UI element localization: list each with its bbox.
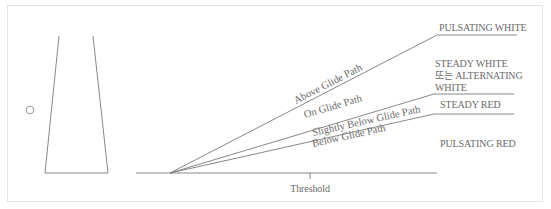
signal-pulsating-red: PULSATING RED	[440, 138, 516, 149]
lamp-icon	[26, 106, 34, 114]
signal-pulsating-white: PULSATING WHITE	[439, 22, 526, 33]
signal-steady-white-line2: 또는 ALTERNATING	[435, 70, 523, 81]
signal-steady-red: STEADY RED	[440, 99, 501, 110]
signal-steady-white-line1: STEADY WHITE	[435, 58, 507, 69]
threshold-label: Threshold	[290, 183, 330, 194]
glide-path-diagram: Threshold Above Glide Path On Glide Path…	[0, 0, 551, 209]
light-unit	[45, 36, 108, 173]
signal-steady-white-line3: WHITE	[435, 82, 467, 93]
